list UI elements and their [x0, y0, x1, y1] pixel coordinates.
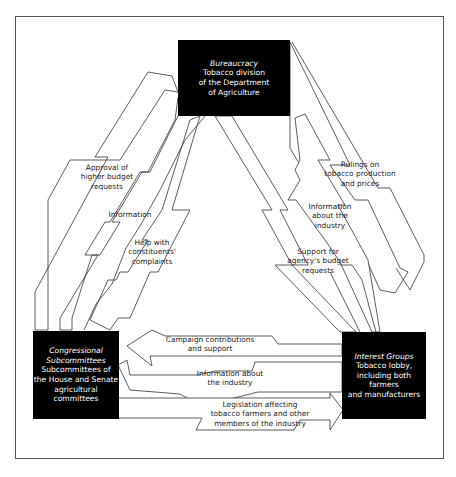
node-interest-groups: Interest Groups Tobacco lobby, including…: [342, 332, 426, 419]
label-line: about the: [300, 211, 360, 220]
label-rulings: Rulings on tobacco production and prices: [320, 160, 400, 188]
label-line: Campaign contributions: [160, 335, 260, 344]
label-info-i-to-b: Information about the industry: [300, 202, 360, 230]
node-congress-title: Congressional: [49, 346, 103, 356]
label-line: tobacco production: [320, 169, 400, 178]
node-bureaucracy-title: Bureaucracy: [210, 59, 258, 69]
node-congress-line: the House and Senate: [34, 375, 118, 385]
label-approval: Approval of higher budget requests: [72, 163, 142, 191]
label-support: Support for agency's budget requests: [283, 247, 353, 275]
label-line: requests: [72, 182, 142, 191]
label-campaign: Campaign contributions and support: [160, 335, 260, 354]
label-info-i-to-c: Information about the industry: [190, 369, 270, 388]
node-congress: Congressional Subcommittees Subcommittee…: [33, 331, 119, 419]
node-interest-line: including both farmers: [342, 371, 426, 390]
node-bureaucracy: Bureaucracy Tobacco division of the Depa…: [178, 40, 290, 116]
label-line: Information about: [190, 369, 270, 378]
label-line: constituents': [118, 247, 186, 256]
label-line: complaints: [118, 257, 186, 266]
label-line: Information: [300, 202, 360, 211]
label-line: Support for: [283, 247, 353, 256]
node-congress-line: committees: [54, 394, 99, 404]
label-line: Information: [100, 210, 160, 219]
node-bureaucracy-line: of the Department: [199, 78, 270, 88]
node-interest-line: Tobacco lobby,: [356, 361, 412, 371]
node-interest-line: and manufacturers: [348, 390, 420, 400]
label-legislation: Legislation affecting tobacco farmers an…: [205, 400, 315, 428]
node-congress-line: agricultural: [54, 385, 97, 395]
label-line: industry: [300, 221, 360, 230]
label-line: Rulings on: [320, 160, 400, 169]
label-line: higher budget: [72, 172, 142, 181]
node-congress-line: Subcommittees of: [41, 365, 110, 375]
node-bureaucracy-line: of Agriculture: [208, 88, 260, 98]
label-line: members of the industry: [205, 419, 315, 428]
label-line: and support: [160, 344, 260, 353]
label-information-c-to-b: Information: [100, 210, 160, 219]
node-bureaucracy-line: Tobacco division: [203, 68, 265, 78]
label-line: Approval of: [72, 163, 142, 172]
node-congress-line: Subcommittees: [46, 356, 105, 366]
label-line: Help with: [118, 238, 186, 247]
label-line: agency's budget: [283, 256, 353, 265]
label-help: Help with constituents' complaints: [118, 238, 186, 266]
node-interest-title: Interest Groups: [354, 352, 413, 362]
label-line: Legislation affecting: [205, 400, 315, 409]
label-line: the industry: [190, 378, 270, 387]
label-line: and prices: [320, 179, 400, 188]
label-line: tobacco farmers and other: [205, 409, 315, 418]
label-line: requests: [283, 266, 353, 275]
